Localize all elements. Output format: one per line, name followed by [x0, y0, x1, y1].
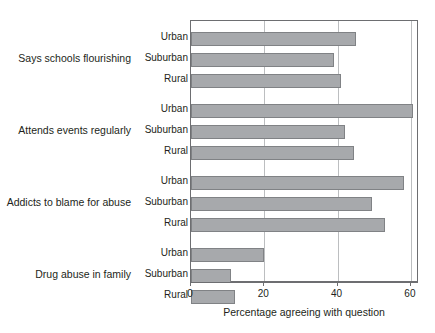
bar-0-rural — [191, 74, 341, 88]
bar-2-urban — [191, 176, 404, 190]
y-tick-label-3-urban: Urban — [68, 248, 188, 258]
x-tick-label-20: 20 — [243, 288, 283, 299]
y-tick-label-0-rural: Rural — [68, 74, 188, 84]
x-axis-title: Percentage agreeing with question — [190, 306, 418, 318]
bar-0-suburban — [191, 53, 334, 67]
group-label-3: Drug abuse in family — [0, 269, 131, 280]
bar-1-urban — [191, 104, 413, 118]
x-tick-label-60: 60 — [390, 288, 430, 299]
bar-2-suburban — [191, 197, 372, 211]
group-label-2: Addicts to blame for abuse — [0, 197, 131, 208]
x-tick-0 — [190, 282, 191, 286]
group-label-1: Attends events regularly — [0, 125, 131, 136]
bar-1-suburban — [191, 125, 345, 139]
bar-2-rural — [191, 218, 385, 232]
y-tick-label-3-rural: Rural — [68, 290, 188, 300]
x-tick-label-40: 40 — [317, 288, 357, 299]
plot-area — [190, 20, 418, 282]
bar-0-urban — [191, 32, 356, 46]
x-tick-40 — [337, 282, 338, 286]
gridline-60 — [411, 21, 412, 281]
y-tick-label-2-rural: Rural — [68, 218, 188, 228]
x-tick-60 — [410, 282, 411, 286]
y-tick-label-1-rural: Rural — [68, 146, 188, 156]
y-tick-label-1-urban: Urban — [68, 104, 188, 114]
x-tick-20 — [263, 282, 264, 286]
bar-chart: 0204060 Percentage agreeing with questio… — [0, 0, 435, 333]
y-tick-label-2-urban: Urban — [68, 176, 188, 186]
bar-3-suburban — [191, 269, 231, 283]
group-label-0: Says schools flourishing — [0, 53, 131, 64]
x-axis-line — [190, 282, 418, 283]
bar-1-rural — [191, 146, 354, 160]
bar-3-urban — [191, 248, 264, 262]
y-tick-label-0-urban: Urban — [68, 32, 188, 42]
